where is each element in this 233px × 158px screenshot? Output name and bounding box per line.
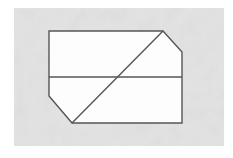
figure-canvas xyxy=(0,0,233,158)
figure-layer xyxy=(0,0,233,158)
geometric-figure-graphic xyxy=(0,0,233,158)
